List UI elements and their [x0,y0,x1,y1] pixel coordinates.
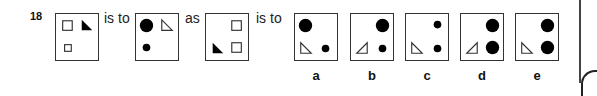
option-b-shapes [351,14,393,60]
open-square-icon [63,21,73,31]
option-d-figure[interactable] [460,13,504,61]
open-triangle-icon [162,20,173,31]
large-filled-circle-icon [486,41,499,54]
connector-as: as [185,10,200,26]
small-filled-circle-icon [379,45,387,53]
large-filled-circle-icon [140,19,153,32]
small-filled-circle-icon [434,45,442,53]
option-c-label[interactable]: c [417,68,437,83]
open-triangle-mirrored-icon [357,43,368,54]
large-filled-circle-icon [299,19,312,32]
option-d-label[interactable]: d [472,68,492,83]
option-c-shapes [406,14,448,60]
large-filled-circle-icon [486,19,499,32]
open-square-icon [232,43,242,53]
option-e-figure[interactable] [515,13,559,61]
premise-figure-3-shapes [206,14,248,60]
premise-figure-3 [205,13,249,61]
option-a-shapes [295,14,337,60]
page-margin-line [579,0,581,83]
option-e-shapes [516,14,558,60]
premise-figure-2-shapes [136,14,178,60]
large-filled-circle-icon [541,19,554,32]
connector-is-to-1: is to [104,10,130,26]
open-triangle-mirrored-icon [467,43,478,54]
connector-is-to-2: is to [256,10,282,26]
premise-figure-1 [55,13,99,61]
page-edge-curve [581,70,597,96]
filled-triangle-icon [213,43,224,54]
premise-figure-1-shapes [56,14,98,60]
option-a-figure[interactable] [294,13,338,61]
option-b-figure[interactable] [350,13,394,61]
open-triangle-icon [522,43,533,54]
open-square-icon [232,21,242,31]
small-filled-circle-icon [322,45,330,53]
filled-triangle-icon [82,20,93,31]
premise-figure-2 [135,13,179,61]
option-c-figure[interactable] [405,13,449,61]
open-triangle-icon [301,43,312,54]
large-filled-circle-icon [376,19,389,32]
option-a-label[interactable]: a [306,68,326,83]
small-open-square-icon [65,45,72,52]
question-number: 18 [30,10,42,22]
option-d-shapes [461,14,503,60]
small-filled-circle-icon [434,21,442,29]
open-triangle-icon [412,43,423,54]
large-filled-circle-icon [541,41,554,54]
option-b-label[interactable]: b [362,68,382,83]
option-e-label[interactable]: e [527,68,547,83]
small-filled-circle-icon [143,44,151,52]
